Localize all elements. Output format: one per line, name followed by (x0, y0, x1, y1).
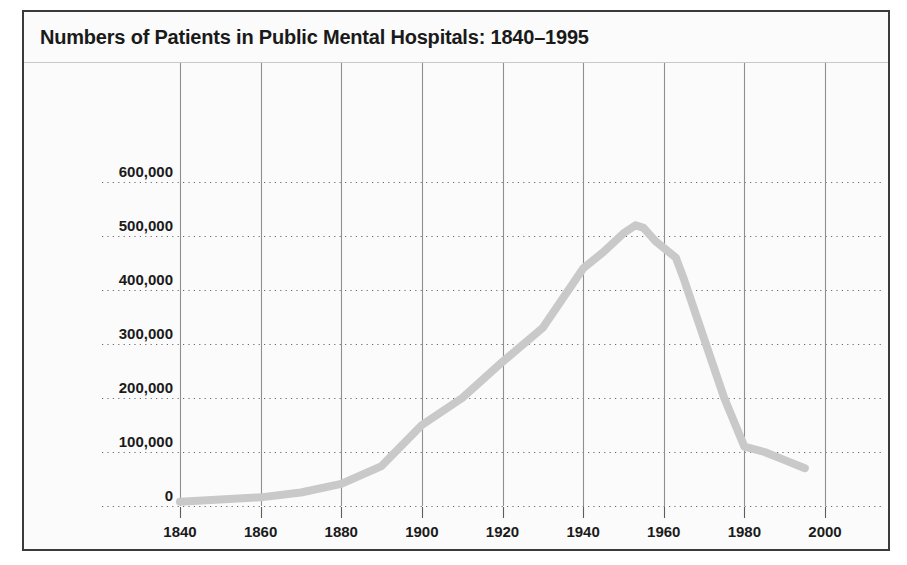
x-axis-tick-labels: 184018601880190019201940196019802000 (163, 523, 841, 540)
chart-figure: Numbers of Patients in Public Mental Hos… (22, 10, 890, 551)
x-axis-tick-label: 1880 (325, 523, 358, 540)
y-axis-tick-label: 400,000 (119, 271, 173, 288)
data-series-line (180, 225, 805, 501)
y-axis-tick-label: 100,000 (119, 433, 173, 450)
horizontal-gridlines (102, 183, 882, 507)
y-axis-tick-label: 0 (165, 487, 173, 504)
vertical-gridlines (181, 63, 826, 506)
x-axis-tick-label: 1900 (405, 523, 438, 540)
line-chart-svg: 0100,000200,000300,000400,000500,000600,… (24, 63, 888, 549)
x-axis-tick-label: 2000 (808, 523, 841, 540)
y-axis-tick-label: 600,000 (119, 163, 173, 180)
x-axis-tick-label: 1860 (244, 523, 277, 540)
chart-title-bar: Numbers of Patients in Public Mental Hos… (24, 12, 888, 63)
x-axis-tick-label: 1940 (566, 523, 599, 540)
y-axis-tick-label: 500,000 (119, 217, 173, 234)
x-axis-tick-label: 1980 (728, 523, 761, 540)
y-axis-tick-label: 200,000 (119, 379, 173, 396)
x-axis-tick-label: 1920 (486, 523, 519, 540)
page-title: Numbers of Patients in Public Mental Hos… (24, 26, 589, 49)
x-axis-tick-label: 1960 (647, 523, 680, 540)
plot-area: 0100,000200,000300,000400,000500,000600,… (24, 63, 888, 549)
x-axis-tick-marks (181, 507, 826, 518)
x-axis-tick-label: 1840 (163, 523, 196, 540)
y-axis-tick-label: 300,000 (119, 325, 173, 342)
